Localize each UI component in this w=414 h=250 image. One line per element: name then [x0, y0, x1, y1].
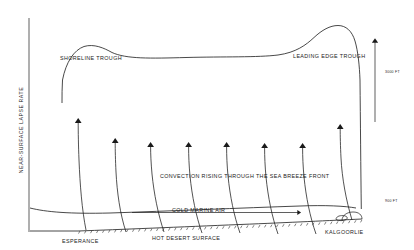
altitude-references: 3000 FT 900 FT	[375, 42, 400, 203]
shoreline-trough-stem	[62, 80, 63, 103]
land-surface-line	[78, 219, 362, 231]
updraft-arrow-2	[115, 142, 126, 232]
shoreline-trough-label: SHORELINE TROUGH	[60, 55, 122, 61]
place-label-kalgoorlie: KALGOORLIE	[325, 229, 364, 235]
sea-breeze-front-diagram: NEAR-SURFACE LAPSE RATE SHORELINE TROUGH…	[0, 0, 414, 250]
updraft-arrow-4	[189, 146, 202, 233]
altitude-900ft-label: 900 FT	[385, 199, 398, 203]
terrain-group	[30, 219, 362, 234]
leading-edge-trough-stem	[360, 80, 361, 209]
place-label-esperance: ESPERANCE	[62, 238, 99, 244]
y-axis-label: NEAR-SURFACE LAPSE RATE	[18, 87, 24, 173]
surface-hatching	[79, 220, 363, 234]
hot-desert-surface-label: HOT DESERT SURFACE	[152, 235, 220, 241]
updraft-arrow-1	[78, 122, 86, 230]
updraft-arrow-5	[227, 146, 240, 233]
updraft-arrow-3	[151, 146, 164, 232]
updraft-arrow-6	[265, 147, 278, 234]
lapse-rate-profile: SHORELINE TROUGH LEADING EDGE TROUGH	[60, 26, 365, 210]
cold-marine-air-label: COLD MARINE AIR	[172, 207, 225, 213]
cold-marine-air-layer: COLD MARINE AIR	[30, 206, 356, 214]
leading-edge-trough-label: LEADING EDGE TROUGH	[293, 53, 365, 59]
y-axis-group: NEAR-SURFACE LAPSE RATE	[18, 18, 29, 232]
convection-label: CONVECTION RISING THROUGH THE SEA BREEZE…	[160, 173, 330, 179]
altitude-3000ft-label: 3000 FT	[385, 70, 400, 74]
